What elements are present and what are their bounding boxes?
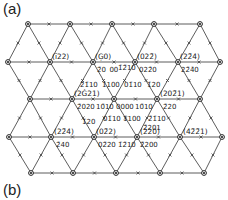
lattice-node (178, 135, 183, 140)
miller-bravais-label: 1̄20 (82, 118, 95, 126)
lattice-node (202, 171, 207, 176)
miller-bravais-label: 10̄10 (135, 103, 153, 111)
plane-index-label: (2Ġ21) (74, 89, 100, 98)
lattice-nodes (6, 22, 225, 176)
miller-bravais-label: 0000 (116, 103, 134, 111)
miller-bravais-label: 2̄201 (143, 124, 161, 132)
miller-bravais-label: 2̄0 00 (97, 66, 118, 74)
triangular-lattice-diagram: (ī22)(Ģ0)(022̄)(22̄4)(2Ġ21)(202̄1)(22̄4)… (0, 0, 228, 200)
miller-bravais-label: 1̄100 (102, 81, 120, 89)
lattice-node (198, 97, 203, 102)
plane-index-label: (ī22) (52, 52, 69, 61)
miller-bravais-label: 22̄4̄0 (181, 66, 199, 74)
miller-bravais-label: 2̄20 (163, 103, 176, 111)
diffraction-pattern-figure: (a) (b) (ī22)(Ģ0)(022̄)(22̄4)(2Ġ21)(202̄… (0, 0, 228, 200)
lattice-node (6, 60, 11, 65)
lattice-node (112, 97, 117, 102)
plane-index-label: (42̄2̄1) (183, 127, 208, 136)
miller-bravais-label: 10̄10 (96, 103, 114, 111)
miller-bravais-label: 2̄1̄10 (148, 115, 166, 123)
miller-bravais-label: 1̄2̄10 (118, 64, 136, 72)
plane-index-label: (202̄1) (160, 89, 185, 98)
lattice-node (220, 135, 225, 140)
lattice-node (110, 22, 115, 27)
lattice-node (135, 135, 140, 140)
plane-index-label: (Ģ0) (95, 52, 111, 61)
plane-index-label: (022̄) (137, 52, 157, 61)
lattice-node (158, 171, 163, 176)
miller-bravais-label: 1̄2̄10 (118, 141, 136, 149)
lattice-node (198, 22, 203, 27)
lattice-node (26, 22, 31, 27)
miller-bravais-label: 01̄10 (103, 115, 121, 123)
miller-bravais-label: 2̄1̄10 (80, 81, 98, 89)
miller-bravais-label: 02̄20 (98, 141, 116, 149)
lattice-node (7, 135, 12, 140)
lattice-node (114, 171, 119, 176)
plane-index-label: (02̄2) (96, 127, 116, 136)
miller-bravais-label: 2̄200 (140, 141, 158, 149)
plane-index-label: (22̄4) (180, 52, 200, 61)
lattice-node (29, 171, 34, 176)
miller-bravais-label: 022̄0 (139, 66, 157, 74)
lattice-node (155, 97, 160, 102)
miller-bravais-label: 2̄020 (77, 103, 95, 111)
lattice-node (68, 22, 73, 27)
plane-index-label: (22̄4) (54, 127, 74, 136)
lattice-node (218, 60, 223, 65)
miller-bravais-label: 1̄20 (147, 81, 160, 89)
miller-bravais-label: 2̄40 (56, 141, 69, 149)
lattice-node (49, 135, 54, 140)
miller-bravais-label: 01̄10 (124, 81, 142, 89)
miller-bravais-label: 1̄100 (123, 115, 141, 123)
lattice-node (152, 22, 157, 27)
lattice-node (71, 171, 76, 176)
lattice-node (28, 97, 33, 102)
